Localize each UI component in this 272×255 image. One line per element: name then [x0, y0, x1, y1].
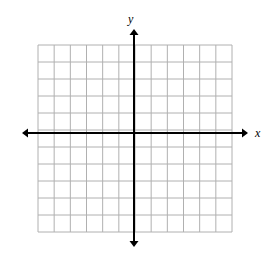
x-axis-label: x	[255, 127, 260, 139]
y-axis-label: y	[128, 13, 133, 25]
grid-svg	[0, 0, 272, 255]
figure-background	[0, 0, 272, 255]
coordinate-plane-figure: y x	[0, 0, 272, 255]
